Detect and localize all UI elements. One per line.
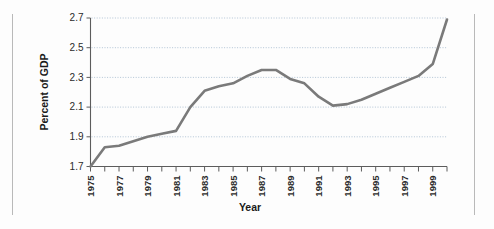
y-axis-tick-label: 2.5: [70, 42, 84, 53]
y-axis-tick-label: 1.7: [70, 161, 84, 172]
x-axis-tick-label: 1995: [370, 175, 381, 197]
x-axis-tick-label: 1977: [114, 176, 125, 197]
chart-figure: 1.71.92.12.32.52.7 197519771979198119831…: [0, 0, 494, 229]
x-axis-tick-label: 1987: [256, 176, 267, 197]
y-axis-title: Percent of GDP: [38, 53, 50, 130]
x-axis-tick-label: 1993: [342, 176, 353, 197]
x-axis-tick-labels: 1975197719791981198319851987198919911993…: [85, 175, 438, 197]
x-axis-tick-label: 1989: [285, 176, 296, 197]
data-series-line: [91, 19, 448, 166]
y-axis-tick-label: 2.1: [70, 101, 84, 112]
x-axis-ticks-group: [91, 167, 448, 172]
y-axis-tick-label: 1.9: [70, 131, 84, 142]
chart-svg: 1.71.92.12.32.52.7 197519771979198119831…: [0, 0, 494, 229]
y-axis-tick-label: 2.3: [70, 72, 84, 83]
x-axis-tick-label: 1997: [399, 176, 410, 197]
y-axis-ticks-group: [87, 18, 91, 167]
x-axis-tick-label: 1983: [199, 176, 210, 197]
x-axis-tick-label: 1975: [85, 175, 96, 197]
gridlines-group: [92, 18, 448, 167]
x-axis-tick-label: 1991: [313, 175, 324, 197]
line-chart-plot: 1.71.92.12.32.52.7 197519771979198119831…: [0, 0, 494, 229]
x-axis-title: Year: [239, 201, 261, 213]
y-axis-tick-label: 2.7: [70, 12, 84, 23]
x-axis-tick-label: 1985: [228, 175, 239, 197]
x-axis-tick-label: 1999: [427, 176, 438, 197]
x-axis-tick-label: 1981: [171, 175, 182, 197]
x-axis-tick-label: 1979: [142, 176, 153, 197]
y-axis-tick-labels: 1.71.92.12.32.52.7: [70, 12, 84, 172]
